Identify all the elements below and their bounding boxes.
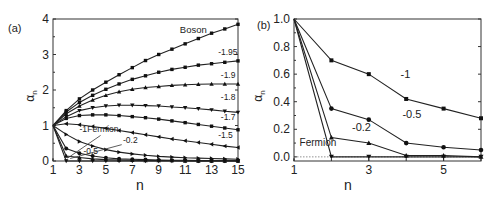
x-tick-label: 5 [440, 163, 447, 177]
series-label: -0.5 [402, 108, 421, 120]
data-point-marker [210, 125, 213, 128]
data-point-marker [91, 113, 94, 116]
data-point-marker [117, 73, 120, 76]
panel-b-xlabel: n [344, 177, 352, 193]
series-label: -0.2 [352, 121, 371, 133]
data-point-marker [236, 23, 239, 26]
data-point-marker [131, 152, 135, 156]
data-point-marker [479, 116, 483, 120]
x-tick-label: 7 [129, 163, 136, 177]
figure: (a) 0123413579111315Boson-1.95-1.9-1.8-1… [0, 0, 502, 198]
data-point-marker [170, 137, 174, 141]
data-point-marker [64, 147, 68, 151]
data-point-marker [144, 74, 147, 77]
panel-a: (a) 0123413579111315Boson-1.95-1.9-1.8-1… [8, 12, 245, 193]
data-point-marker [131, 78, 134, 81]
series-label: -1.5 [218, 130, 233, 140]
data-point-marker [104, 88, 107, 91]
data-point-marker [479, 148, 484, 153]
series-line [294, 19, 481, 118]
svg-text:αn: αn [23, 90, 39, 101]
data-point-marker [404, 141, 409, 146]
series-label: Fermion [300, 137, 337, 148]
data-point-marker [367, 72, 371, 76]
panel-label-b: (b) [257, 19, 270, 31]
data-point-marker [170, 47, 173, 50]
data-point-marker [131, 115, 134, 118]
x-tick-label: 3 [76, 163, 83, 177]
panel-a-ylabel: αn [23, 90, 39, 101]
data-point-marker [157, 135, 161, 139]
svg-text:αn: αn [251, 90, 267, 101]
series--1: -1 [294, 19, 483, 120]
data-point-marker [157, 53, 160, 56]
data-point-marker [157, 71, 160, 74]
data-point-marker [131, 66, 134, 69]
data-point-marker [144, 59, 147, 62]
data-point-marker [117, 114, 120, 117]
x-tick-label: 3 [365, 163, 372, 177]
data-point-marker [404, 97, 408, 101]
y-tick-label: 0.8 [273, 40, 290, 54]
panel-b: (b) 0.00.20.40.60.81.0135-1-0.5-0.2Fermi… [251, 12, 484, 193]
data-point-marker [183, 139, 187, 143]
data-point-marker [104, 80, 107, 83]
data-point-marker [157, 154, 161, 158]
y-tick-label: 0.4 [273, 95, 290, 109]
panel-label-a: (a) [8, 22, 21, 34]
data-point-marker [91, 88, 94, 91]
panel-b-axes: 0.00.20.40.60.81.0135-1-0.5-0.2Fermion [273, 12, 483, 177]
data-point-marker [65, 132, 69, 136]
data-point-marker [170, 68, 173, 71]
x-tick-label: 13 [205, 163, 219, 177]
series-line [294, 19, 481, 150]
data-point-marker [329, 58, 333, 62]
data-point-marker [77, 151, 81, 155]
data-point-marker [130, 130, 134, 134]
y-tick-label: 4 [42, 12, 49, 26]
y-tick-label: 0.6 [273, 67, 290, 81]
series--1-8: -1.8 [53, 92, 240, 126]
plot-frame [53, 19, 238, 161]
series-label: -0.2 [123, 135, 138, 145]
series-label: -1.8 [221, 92, 236, 102]
series-label: Fermion [87, 124, 118, 134]
data-point-marker [183, 66, 186, 69]
data-point-marker [236, 59, 239, 62]
y-tick-label: 0.2 [273, 122, 290, 136]
data-point-marker [223, 27, 226, 30]
series-label: -1.9 [221, 70, 236, 80]
y-tick-label: 1.0 [273, 12, 290, 26]
series-label: -1.7 [221, 112, 236, 122]
data-point-marker [197, 63, 200, 66]
x-tick-label: 1 [291, 163, 298, 177]
x-tick-label: 1 [50, 163, 57, 177]
data-point-marker [223, 61, 226, 64]
series--1-95: -1.95 [53, 47, 240, 126]
y-tick-label: 0 [42, 154, 49, 168]
y-tick-label: 2 [42, 83, 49, 97]
data-point-marker [170, 119, 173, 122]
data-point-marker [329, 106, 334, 111]
data-point-marker [183, 42, 186, 45]
data-point-marker [157, 117, 160, 120]
data-point-marker [64, 122, 68, 126]
data-point-marker [210, 32, 213, 35]
data-point-marker [236, 128, 239, 131]
y-tick-label: 1 [42, 119, 49, 133]
data-point-marker [78, 101, 81, 104]
x-tick-label: 15 [231, 163, 245, 177]
data-point-marker [78, 97, 81, 100]
y-tick-label: 0.0 [273, 150, 290, 164]
data-point-marker [78, 114, 81, 117]
panel-a-xlabel: n [136, 177, 144, 193]
series-label: Boson [180, 24, 207, 35]
x-tick-label: 5 [103, 163, 110, 177]
data-point-marker [117, 150, 121, 154]
data-point-marker [144, 153, 148, 157]
data-point-marker [91, 94, 94, 97]
series-fermion: Fermion [294, 19, 484, 159]
series--0-5: -0.5 [294, 19, 483, 152]
data-point-marker [65, 117, 68, 120]
series-label: -1 [79, 124, 87, 134]
